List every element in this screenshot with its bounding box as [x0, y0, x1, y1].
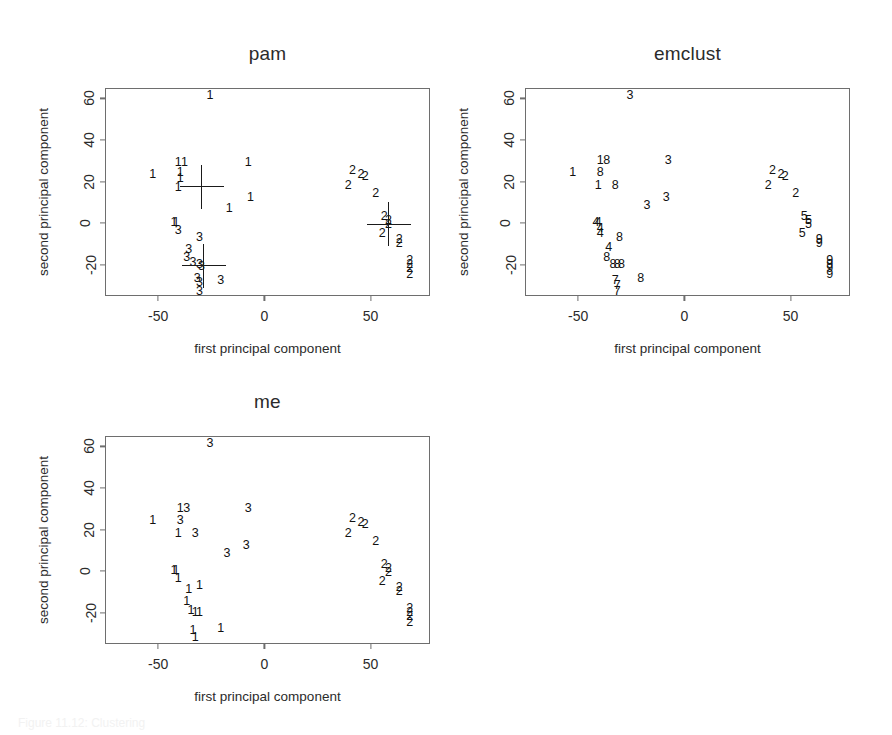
- data-point: 1: [173, 216, 180, 229]
- y-axis-tick-label: 0: [77, 219, 93, 227]
- plot-frame-pam: 11111111111133333333333222222222222222: [105, 88, 430, 296]
- data-point: 1: [175, 572, 182, 585]
- data-point: 1: [173, 564, 180, 577]
- data-point: 4: [593, 216, 600, 229]
- data-point: 9: [816, 237, 823, 250]
- data-point: 9: [826, 253, 833, 266]
- data-point: 3: [196, 257, 203, 270]
- y-axis-tick-label: 20: [501, 174, 517, 190]
- data-point: 4: [597, 226, 604, 239]
- data-point: 7: [612, 274, 619, 287]
- plot-panel-emclust: emclust318181833344448488888777222225555…: [0, 0, 892, 735]
- x-axis-tick-label: -50: [148, 308, 168, 324]
- x-axis-tick: [790, 296, 791, 301]
- x-axis-tick-label: -50: [568, 308, 588, 324]
- y-axis-tick: [100, 571, 105, 572]
- data-point: 3: [177, 514, 184, 527]
- data-point: 2: [396, 585, 403, 598]
- data-point: 2: [406, 257, 413, 270]
- plot-title-emclust: emclust: [465, 43, 892, 65]
- y-axis-tick-label: 20: [81, 174, 97, 190]
- medoid-crosshair-marker: [180, 165, 224, 209]
- data-point: 7: [614, 278, 621, 291]
- data-point: 1: [170, 564, 177, 577]
- data-point: 2: [406, 616, 413, 629]
- y-axis-tick: [520, 264, 525, 265]
- data-point: 2: [362, 518, 369, 531]
- y-axis-label: second principal component: [456, 108, 471, 276]
- data-point: 7: [614, 285, 621, 298]
- data-point: 1: [187, 603, 194, 616]
- data-point: 1: [207, 89, 214, 102]
- data-point: 2: [385, 562, 392, 575]
- data-point: 2: [372, 187, 379, 200]
- x-axis-label: first principal component: [614, 341, 760, 356]
- data-point: 3: [207, 437, 214, 450]
- data-point: 1: [175, 156, 182, 169]
- y-axis-tick: [100, 98, 105, 99]
- y-axis-tick: [100, 487, 105, 488]
- x-axis-tick-label: 50: [363, 656, 379, 672]
- data-point: 2: [385, 218, 392, 231]
- y-axis-tick-label: 60: [81, 439, 97, 455]
- data-point: 8: [610, 257, 617, 270]
- data-point: 1: [247, 191, 254, 204]
- data-point: 2: [792, 187, 799, 200]
- data-point: 3: [224, 547, 231, 560]
- data-point: 2: [379, 226, 386, 239]
- y-axis-label: second principal component: [36, 456, 51, 624]
- x-axis-tick-label: -50: [148, 656, 168, 672]
- y-axis-tick: [520, 181, 525, 182]
- data-point: 3: [243, 539, 250, 552]
- data-point: 1: [192, 605, 199, 618]
- data-point: 2: [379, 574, 386, 587]
- data-point: 1: [226, 201, 233, 214]
- data-point: 3: [663, 191, 670, 204]
- data-point: 8: [597, 166, 604, 179]
- data-point: 4: [597, 222, 604, 235]
- y-axis-tick-label: 0: [77, 567, 93, 575]
- data-point: 9: [826, 268, 833, 281]
- medoid-crosshair-marker: [182, 244, 226, 288]
- data-point: 1: [196, 578, 203, 591]
- data-point: 1: [595, 178, 602, 191]
- data-point: 2: [782, 170, 789, 183]
- y-axis-tick: [100, 181, 105, 182]
- x-axis-tick-label: 0: [680, 308, 688, 324]
- data-point: 2: [345, 178, 352, 191]
- data-point: 9: [816, 233, 823, 246]
- x-axis-tick: [578, 296, 579, 301]
- plot-area-me: 3131313333111111111111222222222222222: [106, 437, 429, 643]
- x-axis-tick-label: 0: [260, 308, 268, 324]
- data-point: 1: [175, 526, 182, 539]
- data-point: 2: [777, 168, 784, 181]
- y-axis-tick-label: -20: [83, 255, 99, 275]
- y-axis-tick: [520, 139, 525, 140]
- data-point: 1: [597, 153, 604, 166]
- plot-frame-me: 3131313333111111111111222222222222222: [105, 436, 430, 644]
- data-point: 2: [372, 535, 379, 548]
- data-point: 3: [644, 199, 651, 212]
- y-axis-tick-label: 40: [81, 480, 97, 496]
- plot-title-me: me: [45, 391, 490, 413]
- data-point: 1: [149, 514, 156, 527]
- data-point: 3: [245, 501, 252, 514]
- y-axis-tick: [520, 98, 525, 99]
- data-point: 1: [177, 501, 184, 514]
- data-point: 1: [181, 156, 188, 169]
- data-point: 2: [385, 214, 392, 227]
- plot-frame-emclust: 318181833344448488888777222225555999999: [525, 88, 850, 296]
- data-point: 5: [805, 218, 812, 231]
- plot-panel-pam: pam1111111111113333333333322222222222222…: [0, 0, 892, 735]
- x-axis-tick: [684, 296, 685, 301]
- x-axis-tick-label: 50: [363, 308, 379, 324]
- data-point: 1: [196, 605, 203, 618]
- data-point: 2: [345, 526, 352, 539]
- data-point: 8: [614, 257, 621, 270]
- data-point: 8: [612, 178, 619, 191]
- data-point: 3: [194, 272, 201, 285]
- data-point: 2: [765, 178, 772, 191]
- data-point: 2: [396, 237, 403, 250]
- data-point: 2: [406, 605, 413, 618]
- data-point: 2: [381, 210, 388, 223]
